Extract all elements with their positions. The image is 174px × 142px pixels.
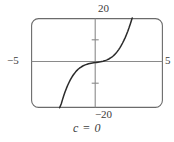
cubic-curve <box>60 18 133 108</box>
y-axis-min-label: −20 <box>33 109 174 120</box>
figure-container: 20 −20 −5 5 c = 0 <box>0 0 174 142</box>
figure-caption: c = 0 <box>0 121 174 136</box>
x-axis-max-label: 5 <box>165 55 171 66</box>
x-axis-min-label: −5 <box>7 55 19 66</box>
graph-viewing-window <box>31 18 163 108</box>
y-axis-max-label: 20 <box>33 3 174 14</box>
